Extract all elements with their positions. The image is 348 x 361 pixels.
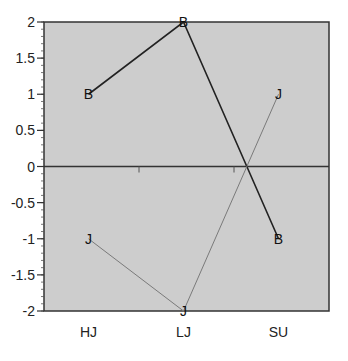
data-point-marker-J: J bbox=[85, 231, 92, 247]
data-point-marker-B: B bbox=[274, 231, 283, 247]
y-tick-label: -1 bbox=[23, 231, 36, 247]
x-category-label: LJ bbox=[176, 324, 191, 340]
data-point-marker-B: B bbox=[179, 14, 188, 30]
data-point-marker-J: J bbox=[275, 86, 282, 102]
y-tick-label: -2 bbox=[23, 303, 36, 319]
data-point-marker-B: B bbox=[84, 86, 93, 102]
data-point-marker-J: J bbox=[180, 303, 187, 319]
x-axis: HJLJSU bbox=[80, 324, 288, 340]
y-tick-label: -0.5 bbox=[11, 195, 35, 211]
x-category-label: SU bbox=[269, 324, 288, 340]
y-tick-label: -1.5 bbox=[11, 267, 35, 283]
y-axis: 21.510.50-0.5-1-1.5-2 bbox=[11, 14, 44, 319]
y-tick-label: 1.5 bbox=[16, 50, 36, 66]
y-tick-label: 1 bbox=[27, 86, 35, 102]
y-tick-label: 0 bbox=[27, 159, 35, 175]
y-tick-label: 2 bbox=[27, 14, 35, 30]
line-chart: 21.510.50-0.5-1-1.5-2 BBBJJJ HJLJSU bbox=[0, 0, 348, 361]
x-category-label: HJ bbox=[80, 324, 97, 340]
y-tick-label: 0.5 bbox=[16, 122, 36, 138]
